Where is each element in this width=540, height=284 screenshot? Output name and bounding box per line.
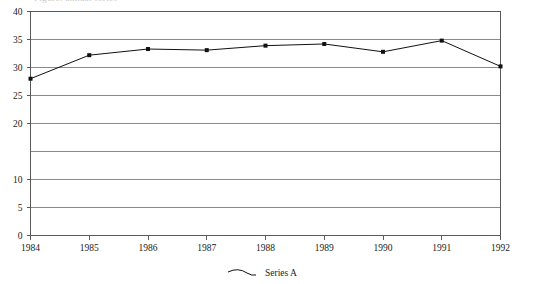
series-data-point — [499, 64, 503, 68]
gridlines — [31, 12, 501, 208]
x-axis-tick-label: 1987 — [197, 243, 216, 253]
series-data-point — [87, 53, 91, 57]
series-data-point — [322, 42, 326, 46]
line-chart: Figure: annual series 40353025201050 198… — [0, 0, 540, 284]
y-axis-tick-label: 10 — [13, 175, 23, 185]
x-axis-tick-label: 1990 — [374, 243, 393, 253]
legend-entry-label: Series A — [265, 268, 297, 278]
y-axis-tick-label: 20 — [13, 119, 23, 129]
x-axis-tick-label: 1992 — [491, 243, 510, 253]
x-axis-tick-label: 1984 — [21, 243, 40, 253]
y-axis-tick-label: 0 — [18, 231, 23, 241]
series-data-point — [205, 48, 209, 52]
series-data-point — [264, 44, 268, 48]
series-data-point — [440, 39, 444, 43]
y-axis-tick-label: 35 — [13, 35, 23, 45]
y-axis-tick-label: 5 — [18, 203, 23, 213]
chart-legend: Series A — [228, 268, 297, 278]
y-axis-tick-label: 40 — [13, 7, 23, 17]
x-axis-tick-label: 1988 — [256, 243, 275, 253]
x-axis: 198419851986198719881989199019911992 — [21, 236, 510, 254]
x-axis-tick-label: 1991 — [432, 243, 451, 253]
series-data-point — [381, 50, 385, 54]
series-group — [29, 39, 503, 81]
series-data-point — [29, 77, 33, 81]
series-data-point — [146, 47, 150, 51]
y-axis-tick-label: 30 — [13, 63, 23, 73]
x-axis-tick-label: 1989 — [315, 243, 334, 253]
y-axis-tick-label: 25 — [13, 91, 23, 101]
x-axis-tick-label: 1985 — [80, 243, 99, 253]
x-axis-tick-label: 1986 — [139, 243, 158, 253]
legend-line-swatch — [228, 270, 256, 276]
y-axis: 40353025201050 — [13, 7, 31, 241]
chart-canvas: 40353025201050 1984198519861987198819891… — [0, 0, 540, 284]
